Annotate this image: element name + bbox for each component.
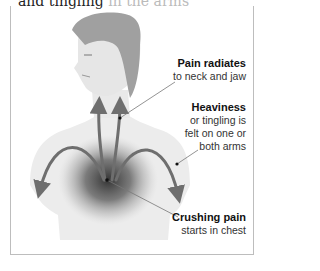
label-line: felt on one or	[185, 127, 246, 140]
label-neck-pain: Pain radiates to neck and jaw	[173, 57, 246, 83]
label-line: or tingling is	[185, 114, 246, 127]
label-line: to neck and jaw	[173, 70, 246, 83]
head-shape	[72, 13, 141, 98]
label-title: Crushing pain	[172, 211, 246, 224]
label-line: both arms	[185, 140, 246, 153]
label-chest-pain: Crushing pain starts in chest	[172, 211, 246, 237]
label-title: Pain radiates	[173, 57, 246, 70]
label-arm-heaviness: Heaviness or tingling is felt on one or …	[185, 101, 246, 153]
label-title: Heaviness	[185, 101, 246, 114]
label-line: starts in chest	[172, 224, 246, 237]
